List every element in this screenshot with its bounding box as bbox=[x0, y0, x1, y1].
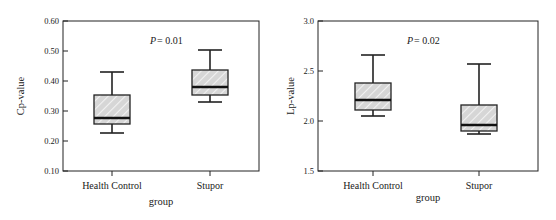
p-value-annotation: P = 0.01 bbox=[149, 35, 183, 46]
y-tick-label: 0.50 bbox=[44, 46, 59, 56]
y-tick-label: 0.60 bbox=[44, 16, 59, 26]
p-value-symbol: P bbox=[406, 35, 413, 46]
x-tick-label-stupor: Stupor bbox=[197, 180, 224, 191]
y-tick-label: 0.20 bbox=[44, 136, 59, 146]
chart-cp-value: 0.60 0.50 0.40 0.30 0.20 0.10 Cp-value H… bbox=[0, 0, 278, 220]
y-tick-label: 2.0 bbox=[303, 116, 314, 126]
y-tick-label: 0.30 bbox=[44, 106, 59, 116]
x-tick-label-stupor: Stupor bbox=[466, 180, 493, 191]
p-value-number: = 0.01 bbox=[157, 35, 183, 46]
y-tick-label: 3.0 bbox=[303, 16, 314, 26]
y-tick-label: 2.5 bbox=[303, 66, 314, 76]
box-iqr bbox=[355, 83, 391, 110]
x-axis-title: group bbox=[149, 196, 174, 207]
x-axis-ticks bbox=[373, 171, 479, 176]
p-value-number: = 0.02 bbox=[414, 35, 440, 46]
figure-two-boxplots: 0.60 0.50 0.40 0.30 0.20 0.10 Cp-value H… bbox=[0, 0, 556, 220]
box-iqr bbox=[461, 105, 497, 131]
box-iqr bbox=[192, 70, 228, 95]
panel-lp-value: 3.0 2.5 2.0 1.5 Lp-value Health Control … bbox=[278, 0, 556, 220]
y-tick-label: 0.10 bbox=[44, 166, 59, 176]
x-axis-ticks bbox=[112, 171, 210, 176]
p-value-symbol: P bbox=[149, 35, 156, 46]
p-value-annotation: P = 0.02 bbox=[406, 35, 440, 46]
y-axis-title: Lp-value bbox=[285, 77, 296, 115]
y-tick-label: 0.40 bbox=[44, 76, 59, 86]
box-iqr bbox=[94, 95, 130, 124]
y-tick-label: 1.5 bbox=[303, 166, 314, 176]
x-tick-label-health-control: Health Control bbox=[82, 180, 142, 191]
chart-lp-value: 3.0 2.5 2.0 1.5 Lp-value Health Control … bbox=[278, 0, 556, 220]
y-axis-title: Cp-value bbox=[15, 76, 26, 115]
panel-cp-value: 0.60 0.50 0.40 0.30 0.20 0.10 Cp-value H… bbox=[0, 0, 278, 220]
x-axis-title: group bbox=[416, 192, 441, 203]
x-tick-label-health-control: Health Control bbox=[343, 180, 403, 191]
